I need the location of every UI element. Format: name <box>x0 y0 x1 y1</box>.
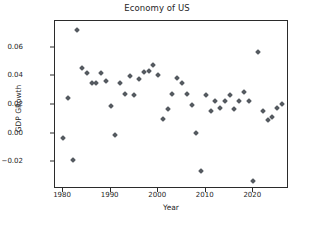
x-tick-label: 1980 <box>53 191 71 199</box>
data-point <box>84 71 90 77</box>
data-point <box>122 91 128 97</box>
data-point <box>75 27 81 33</box>
data-point <box>255 49 261 55</box>
data-point <box>198 168 204 174</box>
y-tick-mark <box>50 46 54 47</box>
data-point <box>136 76 142 82</box>
x-axis-label: Year <box>54 203 288 212</box>
data-point <box>217 105 223 111</box>
data-point <box>189 102 195 108</box>
x-tick-label: 2010 <box>196 191 214 199</box>
y-tick-mark <box>50 104 54 105</box>
data-point <box>222 98 228 104</box>
data-point <box>155 72 161 78</box>
data-point <box>279 101 285 107</box>
data-point <box>151 62 157 68</box>
data-point <box>274 105 280 111</box>
data-point <box>65 95 71 101</box>
data-point <box>208 108 214 114</box>
data-point <box>174 75 180 81</box>
x-tick-mark <box>62 188 63 192</box>
data-point <box>60 135 66 141</box>
data-point <box>212 98 218 104</box>
data-point <box>98 71 104 77</box>
data-point <box>193 130 199 136</box>
y-tick-mark <box>50 75 54 76</box>
data-point <box>113 132 119 138</box>
data-point <box>146 68 152 74</box>
data-point <box>231 106 237 112</box>
x-tick-mark <box>110 188 111 192</box>
data-point <box>70 157 76 163</box>
data-point <box>79 65 85 71</box>
data-point <box>179 81 185 87</box>
data-point <box>184 91 190 97</box>
data-point <box>241 89 247 95</box>
data-point <box>127 73 133 79</box>
x-tick-mark <box>157 188 158 192</box>
data-point <box>250 178 256 184</box>
chart-figure: Economy of US −0.020.000.020.040.06 1980… <box>0 0 314 239</box>
x-tick-label: 2020 <box>243 191 261 199</box>
data-point <box>203 92 209 98</box>
data-point <box>108 104 114 110</box>
data-point <box>260 108 266 114</box>
data-point <box>236 98 242 104</box>
chart-title: Economy of US <box>0 3 314 13</box>
data-point <box>141 69 147 75</box>
data-point <box>160 117 166 123</box>
data-point <box>165 106 171 112</box>
data-point <box>132 92 138 98</box>
scatter-points-layer <box>55 21 287 187</box>
x-tick-mark <box>205 188 206 192</box>
data-point <box>117 81 123 87</box>
data-point <box>227 92 233 98</box>
data-point <box>103 78 109 84</box>
data-point <box>270 114 276 120</box>
y-axis-label: GDP GRowth <box>14 69 23 149</box>
y-tick-label: 0.06 <box>7 43 23 51</box>
x-tick-label: 2000 <box>148 191 166 199</box>
y-tick-mark <box>50 132 54 133</box>
data-point <box>246 98 252 104</box>
x-tick-label: 1990 <box>101 191 119 199</box>
y-tick-label: −0.02 <box>2 157 23 165</box>
y-tick-mark <box>50 161 54 162</box>
data-point <box>94 81 100 87</box>
x-tick-mark <box>252 188 253 192</box>
plot-axes <box>54 20 288 188</box>
data-point <box>170 91 176 97</box>
